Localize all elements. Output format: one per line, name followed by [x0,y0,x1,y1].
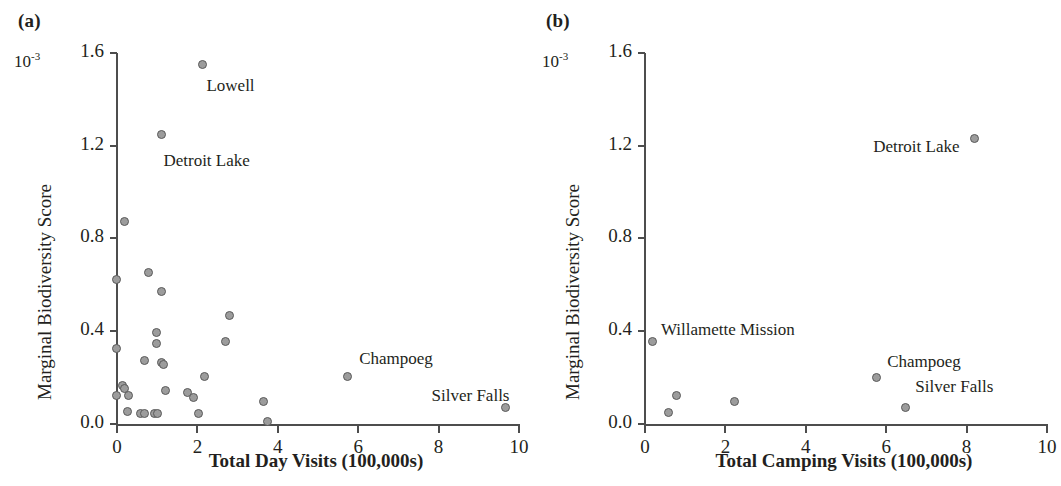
point-annotation: Detroit Lake [873,137,959,157]
x-axis-tick-label: 8 [941,436,993,458]
multiplier-exponent: -3 [31,50,40,62]
y-axis-multiplier: 10-3 [14,52,40,72]
x-axis-tick [518,426,520,433]
y-axis-tick-label: 1.2 [568,133,632,155]
y-axis-tick [638,330,645,332]
data-point [225,311,234,320]
data-point [120,217,129,226]
x-axis-spine [644,424,1048,426]
x-axis-tick-label: 6 [332,436,384,458]
y-axis-tick-label: 0.0 [40,411,104,433]
point-annotation: Willamette Mission [661,320,795,340]
y-axis-label: Marginal Biodiversity Score [34,184,56,400]
data-point [123,407,132,416]
multiplier-base: 10 [14,52,31,71]
data-point [664,408,673,417]
point-annotation: Champoeg [359,349,433,369]
point-annotation: Silver Falls [432,386,510,406]
y-axis-tick-label: 1.2 [40,133,104,155]
x-axis-tick [966,426,968,433]
data-point [198,60,207,69]
panel-b: (b)10-3Marginal Biodiversity ScoreTotal … [526,0,1052,486]
point-annotation: Lowell [206,76,254,96]
data-point [189,393,198,402]
x-axis-tick [277,426,279,433]
y-axis-tick-label: 0.8 [40,225,104,247]
data-point [159,360,168,369]
x-axis-tick [438,426,440,433]
data-point [194,409,203,418]
data-point [970,134,979,143]
y-axis-tick [110,423,117,425]
y-axis-tick [110,145,117,147]
data-point [112,344,121,353]
y-axis-tick-label: 0.8 [568,225,632,247]
x-axis-tick-label: 2 [171,436,223,458]
x-axis-tick-label: 4 [780,436,832,458]
y-axis-tick-label: 0.4 [568,318,632,340]
point-annotation: Champoeg [887,352,961,372]
x-axis-tick-label: 0 [619,436,671,458]
x-axis-tick [1046,426,1048,433]
y-axis-tick-label: 1.6 [40,40,104,62]
y-axis-tick [110,52,117,54]
data-point [221,337,230,346]
x-axis-tick-label: 2 [699,436,751,458]
y-axis-tick [638,145,645,147]
x-axis-tick [805,426,807,433]
data-point [157,130,166,139]
data-point [152,339,161,348]
y-axis-label: Marginal Biodiversity Score [562,184,584,400]
data-point [140,409,149,418]
data-point [259,397,268,406]
panel-a: (a)10-3Marginal Biodiversity ScoreTotal … [0,0,526,486]
data-point [112,391,121,400]
panel-tag: (b) [546,10,570,32]
y-axis-tick [110,237,117,239]
data-point [672,391,681,400]
x-axis-spine [116,424,520,426]
x-axis-tick-label: 10 [1021,436,1061,458]
x-axis-tick [644,426,646,433]
data-point [140,356,149,365]
data-point [200,372,209,381]
data-point [872,373,881,382]
point-annotation: Detroit Lake [163,151,249,171]
multiplier-exponent: -3 [559,50,568,62]
panel-tag: (a) [18,10,41,32]
data-point [153,409,162,418]
y-axis-tick [638,237,645,239]
y-axis-tick-label: 0.4 [40,318,104,340]
y-axis-multiplier: 10-3 [542,52,568,72]
x-axis-tick-label: 0 [91,436,143,458]
data-point [343,372,352,381]
y-axis-tick [638,52,645,54]
x-axis-tick [116,426,118,433]
x-axis-tick-label: 8 [413,436,465,458]
data-point [144,268,153,277]
y-axis-tick [638,423,645,425]
x-axis-tick [885,426,887,433]
y-axis-tick [110,330,117,332]
data-point [901,403,910,412]
data-point [152,328,161,337]
x-axis-tick [196,426,198,433]
x-axis-tick-label: 6 [860,436,912,458]
y-axis-tick-label: 1.6 [568,40,632,62]
x-axis-tick-label: 4 [252,436,304,458]
x-axis-tick [357,426,359,433]
multiplier-base: 10 [542,52,559,71]
x-axis-tick [724,426,726,433]
data-point [157,287,166,296]
data-point [112,275,121,284]
data-point [648,337,657,346]
point-annotation: Silver Falls [915,377,993,397]
data-point [730,397,739,406]
y-axis-tick-label: 0.0 [568,411,632,433]
data-point [124,391,133,400]
data-point [161,386,170,395]
